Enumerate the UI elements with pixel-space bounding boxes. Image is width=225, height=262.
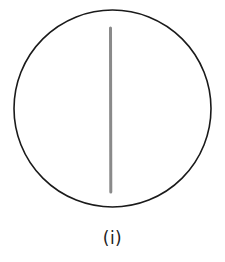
diagram-figure: [0, 0, 225, 262]
outer-circle: [14, 10, 211, 207]
figure-caption: (i): [0, 228, 225, 248]
